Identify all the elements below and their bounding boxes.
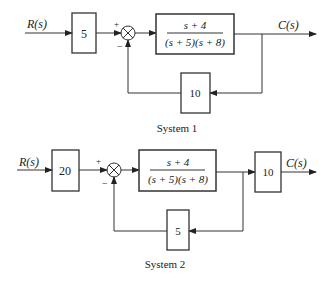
- sum-plus-sign: +: [96, 156, 101, 166]
- feedback-gain-value: 5: [175, 225, 181, 237]
- plant-denominator: (s + 5)(s + 8): [165, 36, 225, 49]
- output-label: C(s): [286, 156, 307, 170]
- summing-junction: [107, 163, 121, 177]
- sum-minus-sign: −: [102, 178, 108, 189]
- plant-numerator: s + 4: [184, 19, 207, 31]
- block-diagrams: R(s) 5 + − s + 4 (s + 5)(s + 8) C(s) 10 …: [0, 0, 332, 286]
- output-label: C(s): [278, 18, 299, 32]
- summing-junction: [121, 26, 135, 40]
- feedback-gain-value: 10: [190, 87, 202, 99]
- plant-denominator: (s + 5)(s + 8): [148, 173, 208, 186]
- post-gain-value: 10: [263, 166, 275, 178]
- input-label: R(s): [18, 155, 39, 169]
- system-caption: System 2: [145, 258, 186, 270]
- sum-plus-sign: +: [114, 19, 119, 29]
- pre-gain-value: 20: [59, 164, 71, 178]
- system-1: [25, 13, 316, 113]
- system-caption: System 1: [157, 122, 198, 134]
- sum-minus-sign: −: [117, 41, 123, 52]
- input-label: R(s): [26, 17, 47, 31]
- pre-gain-value: 5: [81, 27, 87, 41]
- plant-numerator: s + 4: [167, 156, 190, 168]
